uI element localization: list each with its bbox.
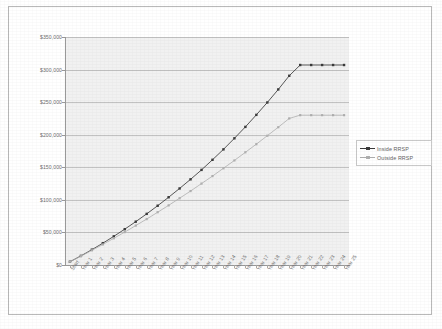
data-point-marker — [255, 143, 257, 145]
series-plot — [65, 37, 349, 266]
data-point-marker — [321, 64, 323, 66]
data-point-marker — [200, 182, 202, 184]
data-point-marker — [124, 231, 126, 233]
y-axis-tick-label: $200,000 — [2, 132, 62, 138]
data-point-marker — [266, 101, 268, 103]
data-point-marker — [189, 190, 191, 192]
legend-marker-outside-rrsp — [360, 153, 375, 162]
data-point-marker — [124, 228, 126, 230]
y-axis-tick-label: $150,000 — [2, 164, 62, 170]
data-point-marker — [91, 249, 93, 251]
data-point-marker — [145, 213, 147, 215]
data-point-marker — [146, 218, 148, 220]
y-axis-labels: $0$50,000$100,000$150,000$200,000$250,00… — [0, 0, 62, 329]
data-point-marker — [343, 64, 345, 66]
data-point-marker — [321, 114, 323, 116]
data-point-marker — [135, 224, 137, 226]
data-point-marker — [277, 126, 279, 128]
legend-item-outside-rrsp: Outside RRSP — [360, 153, 429, 162]
y-axis-tick-label: $100,000 — [2, 197, 62, 203]
data-point-marker — [233, 159, 235, 161]
y-axis-tick-label: $350,000 — [2, 34, 62, 40]
data-point-marker — [156, 205, 158, 207]
data-point-marker — [244, 151, 246, 153]
data-point-marker — [102, 243, 104, 245]
y-axis-tick-label: $0 — [2, 262, 62, 268]
data-point-marker — [80, 255, 82, 257]
data-point-marker — [113, 237, 115, 239]
data-point-marker — [168, 204, 170, 206]
data-point-marker — [211, 175, 213, 177]
data-point-marker — [310, 64, 312, 66]
legend-label-outside-rrsp: Outside RRSP — [377, 155, 413, 161]
data-point-marker — [332, 114, 334, 116]
data-point-marker — [233, 137, 235, 139]
data-point-marker — [200, 169, 202, 171]
data-point-marker — [310, 114, 312, 116]
data-point-marker — [288, 117, 290, 119]
y-axis-tick-label: $300,000 — [2, 67, 62, 73]
data-point-marker — [332, 64, 334, 66]
data-point-marker — [157, 211, 159, 213]
data-point-marker — [244, 126, 246, 128]
chart-legend: Inside RRSP Outside RRSP — [356, 140, 432, 166]
data-point-marker — [255, 114, 257, 116]
series-line — [70, 115, 344, 262]
data-point-marker — [343, 114, 345, 116]
data-point-marker — [178, 187, 180, 189]
legend-label-inside-rrsp: Inside RRSP — [377, 146, 409, 152]
data-point-marker — [113, 235, 115, 237]
data-point-marker — [222, 148, 224, 150]
data-point-marker — [135, 220, 137, 222]
data-point-marker — [266, 135, 268, 137]
data-point-marker — [288, 75, 290, 77]
data-point-marker — [211, 159, 213, 161]
data-point-marker — [222, 167, 224, 169]
data-point-marker — [167, 196, 169, 198]
data-point-marker — [299, 114, 301, 116]
chart-object: $0$50,000$100,000$150,000$200,000$250,00… — [0, 0, 442, 329]
data-point-marker — [277, 88, 279, 90]
data-point-marker — [69, 261, 71, 263]
legend-item-inside-rrsp: Inside RRSP — [360, 144, 429, 153]
series-inside-rrsp — [69, 64, 346, 263]
data-point-marker — [178, 197, 180, 199]
x-axis-labels: StartYear 1Year 2Year 3Year 4Year 5Year … — [65, 266, 350, 311]
y-axis-tick-label: $250,000 — [2, 99, 62, 105]
y-axis-tick-label: $50,000 — [2, 229, 62, 235]
legend-marker-inside-rrsp — [360, 144, 375, 153]
series-line — [70, 65, 344, 262]
series-outside-rrsp — [69, 114, 345, 263]
data-point-marker — [189, 178, 191, 180]
data-point-marker — [299, 64, 301, 66]
